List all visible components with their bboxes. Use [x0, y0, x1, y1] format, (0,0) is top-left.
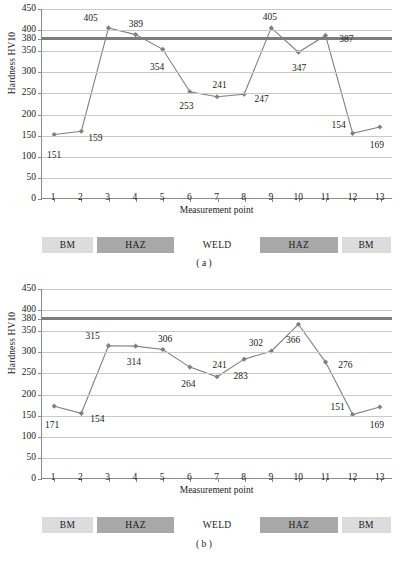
gridline-350	[42, 51, 392, 52]
zone-band-haz: HAZ	[260, 237, 338, 253]
zone-band-bm: BM	[342, 517, 391, 533]
reference-line-380	[42, 317, 392, 319]
x-tick-label: 10	[293, 192, 303, 202]
y-tick-mark	[38, 136, 42, 137]
x-tick-label: 8	[241, 192, 246, 202]
y-tick-label: 400	[6, 305, 36, 315]
y-tick-mark	[38, 458, 42, 459]
x-tick-label: 5	[160, 192, 165, 202]
x-tick-label: 3	[105, 472, 110, 482]
y-tick-labels-a: 050100150200250300350380400450	[4, 0, 36, 215]
data-label: 171	[45, 420, 59, 430]
data-point-marker	[214, 94, 219, 99]
y-tick-mark	[38, 352, 42, 353]
data-label: 314	[127, 357, 141, 367]
data-label: 253	[179, 101, 193, 111]
x-tick-label: 1	[51, 472, 56, 482]
zone-band-haz: HAZ	[260, 517, 338, 533]
gridline-250	[42, 373, 392, 374]
zone-band-haz: HAZ	[97, 237, 175, 253]
data-label: 151	[47, 150, 61, 160]
data-label: 247	[255, 94, 269, 104]
gridline-50	[42, 178, 392, 179]
zone-strip-b: BMHAZWELDHAZBM	[41, 517, 392, 533]
data-label: 241	[212, 360, 226, 370]
data-label: 154	[90, 414, 104, 424]
gridline-50	[42, 458, 392, 459]
y-tick-label: 300	[6, 67, 36, 77]
x-tick-label: 7	[214, 192, 219, 202]
y-tick-label: 250	[6, 368, 36, 378]
data-label: 154	[331, 120, 345, 130]
x-tick-label: 12	[348, 472, 358, 482]
x-tick-label: 4	[132, 192, 137, 202]
y-tick-mark	[38, 157, 42, 158]
gridline-400	[42, 310, 392, 311]
data-label: 151	[330, 402, 344, 412]
zone-band-bm: BM	[42, 517, 92, 533]
x-tick-label: 6	[187, 192, 192, 202]
x-tick-label: 2	[78, 472, 83, 482]
y-tick-label: 50	[6, 453, 36, 463]
y-tick-mark	[38, 437, 42, 438]
data-label: 159	[88, 133, 102, 143]
y-tick-label: 100	[6, 152, 36, 162]
data-label: 387	[339, 34, 353, 44]
y-tick-label: 450	[6, 284, 36, 294]
y-tick-label: 250	[6, 88, 36, 98]
y-tick-mark	[38, 289, 42, 290]
y-tick-mark	[38, 199, 42, 200]
y-tick-mark	[38, 178, 42, 179]
x-tick-label: 5	[160, 472, 165, 482]
x-axis-title-a: Measurement point	[41, 205, 392, 215]
x-tick-label: 11	[321, 192, 330, 202]
data-label: 302	[249, 338, 263, 348]
data-label: 405	[263, 12, 277, 22]
zone-strip-a: BMHAZWELDHAZBM	[41, 237, 392, 253]
x-tick-label: 11	[321, 472, 330, 482]
zone-band-bm: BM	[342, 237, 391, 253]
gridline-450	[42, 289, 392, 290]
x-tick-label: 1	[51, 192, 56, 202]
plot-canvas-b: 171154315314306264241283302366276151169	[41, 289, 392, 479]
panel-caption-a: ( a )	[0, 258, 408, 268]
y-tick-mark	[38, 9, 42, 10]
data-label: 315	[86, 331, 100, 341]
y-tick-label: 450	[6, 4, 36, 14]
y-tick-mark	[38, 416, 42, 417]
y-tick-mark	[38, 373, 42, 374]
data-label: 347	[292, 63, 306, 73]
data-label: 366	[286, 335, 300, 345]
y-tick-mark	[38, 479, 42, 480]
y-tick-label: 50	[6, 173, 36, 183]
gridline-200	[42, 395, 392, 396]
y-tick-label: 400	[6, 25, 36, 35]
y-tick-mark	[38, 93, 42, 94]
y-tick-label: 380	[6, 34, 36, 44]
y-tick-mark	[38, 310, 42, 311]
data-point-marker	[106, 343, 111, 348]
x-tick-label: 10	[293, 472, 303, 482]
y-tick-label: 150	[6, 131, 36, 141]
y-tick-mark	[38, 319, 42, 320]
gridline-300	[42, 352, 392, 353]
gridline-400	[42, 30, 392, 31]
data-point-marker	[133, 344, 138, 349]
x-tick-label: 13	[375, 192, 385, 202]
plot-area-a: Hardness HV10 05010015020025030035038040…	[0, 0, 408, 215]
figure-panel-a: Hardness HV10 05010015020025030035038040…	[0, 0, 408, 280]
y-tick-label: 100	[6, 432, 36, 442]
data-label: 354	[150, 62, 164, 72]
y-tick-mark	[38, 72, 42, 73]
x-tick-label: 4	[132, 472, 137, 482]
y-tick-mark	[38, 395, 42, 396]
gridline-300	[42, 72, 392, 73]
gridline-250	[42, 93, 392, 94]
data-point-marker	[79, 129, 84, 134]
data-point-marker	[133, 32, 138, 37]
figure-panel-b: Hardness HV10 05010015020025030035038040…	[0, 280, 408, 561]
gridline-200	[42, 115, 392, 116]
y-tick-mark	[38, 51, 42, 52]
x-tick-label: 9	[269, 192, 274, 202]
data-label: 276	[338, 360, 352, 370]
